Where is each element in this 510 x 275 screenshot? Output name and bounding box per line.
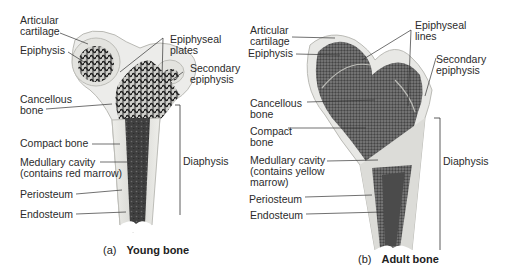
label-articular-cartilage-b: Articular cartilage <box>250 25 290 47</box>
label-periosteum-b: Periosteum <box>249 194 302 205</box>
label-epiphyseal-lines: Epiphyseal lines <box>415 20 466 42</box>
label-secondary-epiphysis-b: Secondary epiphysis <box>436 54 486 76</box>
caption-young-bone: (a)Young bone <box>103 244 189 256</box>
label-endosteum-a: Endosteum <box>20 209 73 220</box>
label-secondary-epiphysis-a: Secondary epiphysis <box>190 63 240 85</box>
label-compact-bone-b: Compact bone <box>250 126 292 148</box>
label-cancellous-bone-b: Cancellous bone <box>250 98 302 120</box>
label-medullary-cavity-b: Medullary cavity (contains yellow marrow… <box>250 155 325 188</box>
label-epiphyseal-plates: Epiphyseal plates <box>170 34 221 56</box>
label-medullary-cavity-a: Medullary cavity (contains red marrow) <box>20 157 122 179</box>
label-compact-bone-a: Compact bone <box>20 138 88 149</box>
caption-adult-bone: (b)Adult bone <box>358 253 439 265</box>
label-diaphysis-a: Diaphysis <box>183 156 229 167</box>
label-articular-cartilage-a: Articular cartilage <box>20 15 60 37</box>
label-epiphysis-b: Epiphysis <box>248 48 293 59</box>
label-epiphysis-a: Epiphysis <box>20 45 65 56</box>
label-diaphysis-b: Diaphysis <box>443 156 489 167</box>
label-cancellous-bone-a: Cancellous bone <box>20 94 72 116</box>
label-endosteum-b: Endosteum <box>250 210 303 221</box>
label-periosteum-a: Periosteum <box>20 189 73 200</box>
adult-bone <box>307 35 440 258</box>
